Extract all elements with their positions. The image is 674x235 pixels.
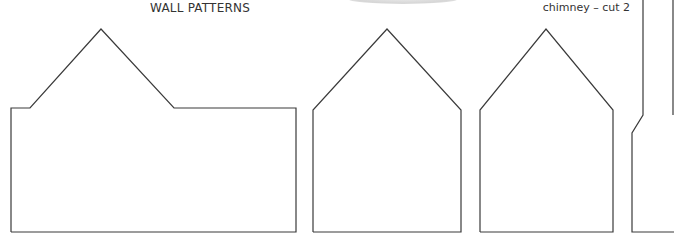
gable-wall-1 — [313, 29, 461, 232]
chimney — [632, 0, 674, 232]
gable-wall-2 — [480, 29, 613, 232]
pattern-drawings — [0, 0, 674, 235]
wall-patterns-page: WALL PATTERNS chimney – cut 2 — [0, 0, 674, 235]
side-wall-with-gable — [11, 29, 296, 232]
